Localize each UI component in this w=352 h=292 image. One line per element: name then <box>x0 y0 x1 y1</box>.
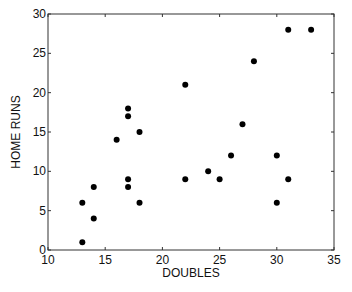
data-point <box>274 200 280 206</box>
y-axis-label: HOME RUNS <box>9 95 23 168</box>
data-point <box>217 176 223 182</box>
data-point <box>274 153 280 159</box>
y-tick-label: 0 <box>39 243 46 257</box>
y-tick-label: 30 <box>33 7 47 21</box>
x-axis-ticks: 101520253035 <box>41 14 341 267</box>
data-point <box>114 137 120 143</box>
data-point <box>285 176 291 182</box>
data-point <box>137 129 143 135</box>
data-point <box>205 168 211 174</box>
data-point <box>285 27 291 33</box>
y-tick-label: 20 <box>33 86 47 100</box>
y-tick-label: 10 <box>33 164 47 178</box>
x-tick-label: 20 <box>156 253 170 267</box>
data-point <box>182 82 188 88</box>
x-tick-label: 15 <box>99 253 113 267</box>
data-point <box>239 121 245 127</box>
plot-frame <box>48 14 334 250</box>
data-point <box>182 176 188 182</box>
x-tick-label: 35 <box>327 253 341 267</box>
data-point <box>228 153 234 159</box>
x-axis-label: DOUBLES <box>162 266 219 280</box>
data-point <box>79 200 85 206</box>
data-point <box>251 58 257 64</box>
data-point <box>125 184 131 190</box>
data-point <box>137 200 143 206</box>
y-tick-label: 15 <box>33 125 47 139</box>
data-point <box>308 27 314 33</box>
y-axis-ticks: 051015202530 <box>33 7 334 257</box>
data-point <box>125 113 131 119</box>
x-tick-label: 30 <box>270 253 284 267</box>
data-point <box>79 239 85 245</box>
y-tick-label: 25 <box>33 46 47 60</box>
data-point <box>125 176 131 182</box>
x-tick-label: 25 <box>213 253 227 267</box>
data-point <box>125 105 131 111</box>
data-points <box>79 27 314 245</box>
y-tick-label: 5 <box>39 204 46 218</box>
data-point <box>91 216 97 222</box>
scatter-plot: 101520253035 051015202530 <box>0 0 352 292</box>
data-point <box>91 184 97 190</box>
